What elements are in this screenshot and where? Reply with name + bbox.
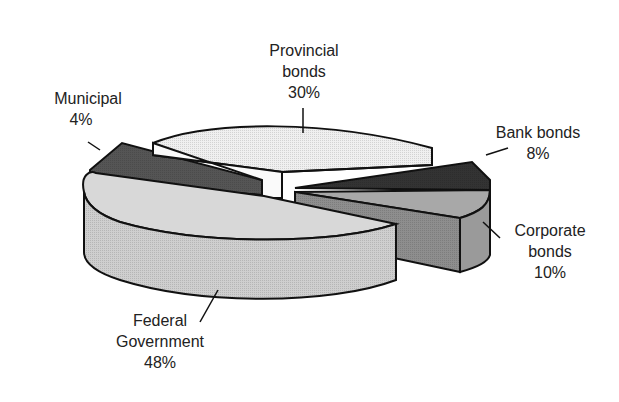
leader-municipal [88,142,100,150]
label-name: Municipal [48,88,128,109]
label-percent: 48% [100,352,220,373]
label-name: Corporate [500,220,600,241]
label-bank-bonds: Bank bonds 8% [488,122,588,164]
label-name: Federal [100,310,220,331]
label-municipal: Municipal 4% [48,88,128,130]
label-name: Bank bonds [488,122,588,143]
label-percent: 8% [488,143,588,164]
label-name: bonds [500,241,600,262]
label-percent: 4% [48,109,114,130]
label-percent: 30% [256,82,352,103]
label-percent: 10% [500,262,600,283]
label-provincial: Provincial bonds 30% [256,40,352,103]
label-federal-government: Federal Government 48% [100,310,220,373]
label-name: Provincial [256,40,352,61]
label-name: bonds [256,61,352,82]
label-corporate-bonds: Corporate bonds 10% [500,220,600,283]
label-name: Government [100,331,220,352]
